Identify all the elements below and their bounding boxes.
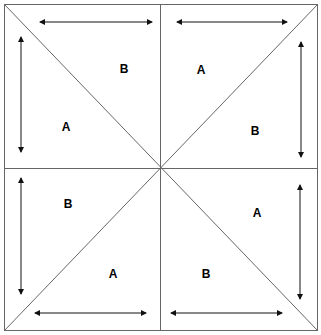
- region-label-bl-b: B: [64, 197, 73, 211]
- outline: [4, 4, 318, 331]
- region-label-tr-a: A: [197, 63, 206, 77]
- region-label-tr-b: B: [251, 124, 260, 138]
- region-label-br-a: A: [253, 206, 262, 220]
- region-label-bl-a: A: [109, 267, 118, 281]
- region-label-br-b: B: [202, 267, 211, 281]
- pattern-diagram: BAABBAAB: [0, 0, 321, 335]
- region-label-tl-b: B: [120, 62, 129, 76]
- region-label-tl-a: A: [62, 120, 71, 134]
